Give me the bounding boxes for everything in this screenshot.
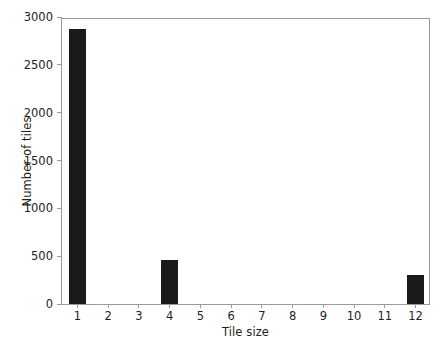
x-tick-label: 9 xyxy=(308,309,338,323)
x-tick-mark xyxy=(108,304,109,308)
x-tick-mark xyxy=(169,304,170,308)
x-tick-label: 4 xyxy=(155,309,185,323)
x-tick-label: 11 xyxy=(370,309,400,323)
y-tick-mark xyxy=(57,304,62,305)
x-tick-label: 12 xyxy=(401,309,431,323)
x-tick-label: 3 xyxy=(124,309,154,323)
x-tick-mark xyxy=(138,304,139,308)
x-tick-mark xyxy=(323,304,324,308)
y-tick-label: 2500 xyxy=(24,57,53,73)
x-tick-label: 1 xyxy=(62,309,92,323)
y-tick-mark xyxy=(57,64,62,65)
x-tick-label: 7 xyxy=(247,309,277,323)
x-tick-label: 6 xyxy=(216,309,246,323)
y-tick-mark xyxy=(57,160,62,161)
x-tick-label: 8 xyxy=(278,309,308,323)
bar xyxy=(161,260,178,304)
y-tick-mark xyxy=(57,112,62,113)
y-tick-label: 0 xyxy=(46,296,53,312)
y-tick-label: 1500 xyxy=(24,153,53,169)
y-tick-mark xyxy=(57,17,62,18)
y-tick-label: 3000 xyxy=(24,9,53,25)
y-tick-label: 1000 xyxy=(24,200,53,216)
x-tick-mark xyxy=(77,304,78,308)
y-tick-mark xyxy=(57,208,62,209)
x-tick-label: 10 xyxy=(339,309,369,323)
plot-area: 050010001500200025003000 123456789101112 xyxy=(61,18,430,305)
x-tick-label: 2 xyxy=(93,309,123,323)
y-tick-label: 2000 xyxy=(24,105,53,121)
x-tick-mark xyxy=(261,304,262,308)
x-tick-mark xyxy=(200,304,201,308)
bar xyxy=(69,29,86,304)
x-tick-mark xyxy=(415,304,416,308)
x-axis-title: Tile size xyxy=(61,325,430,339)
bar-chart-figure: Number of tiles 050010001500200025003000… xyxy=(0,0,447,349)
x-tick-mark xyxy=(231,304,232,308)
x-tick-mark xyxy=(292,304,293,308)
x-tick-mark xyxy=(384,304,385,308)
y-tick-label: 500 xyxy=(31,248,53,264)
x-tick-label: 5 xyxy=(185,309,215,323)
y-tick-mark xyxy=(57,256,62,257)
x-tick-mark xyxy=(354,304,355,308)
bar xyxy=(407,275,424,304)
